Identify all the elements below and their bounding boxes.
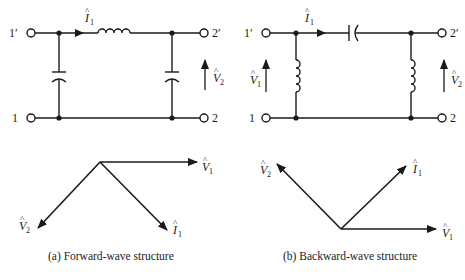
label-current-a: I 1 ^ [84,6,94,27]
terminal-2-b [438,114,446,122]
shunt-inductor-right-b [411,60,415,92]
svg-text:2: 2 [458,80,462,89]
label-v1-b: V 1 ^ [250,68,261,89]
phasor-i1-a [100,162,167,230]
label-1-b: 1 [249,111,255,125]
terminal-2prime-a [200,29,208,37]
svg-text:2: 2 [267,170,271,179]
node-a-tr [169,30,174,35]
svg-text:1: 1 [90,18,94,27]
label-2prime-b: 2′ [450,26,459,40]
svg-text:^: ^ [173,218,178,228]
circuit-a [27,29,208,122]
label-1-a: 1 [12,111,18,125]
terminal-2prime-b [438,29,446,37]
node-b-tr [408,30,413,35]
label-current-b: I 1 ^ [304,6,314,27]
label-1prime-a: 1′ [9,26,18,40]
shunt-inductor-left-b [296,60,300,92]
phasor-label-i1-a: I 1 ^ [172,218,182,239]
terminal-1prime-b [262,29,270,37]
svg-text:1: 1 [178,230,182,239]
svg-text:^: ^ [413,157,418,167]
svg-text:1: 1 [209,167,213,176]
svg-text:^: ^ [305,6,310,16]
label-2prime-a: 2′ [212,26,221,40]
figure-canvas: 1′ 1 2′ 2 I 1 ^ V 2 ^ [0,0,465,280]
phasor-v2-b [277,164,341,229]
caption-a: (a) Forward-wave structure [48,250,174,262]
node-a-bl [56,115,61,120]
svg-text:2: 2 [26,226,30,235]
phasor-i1-b [341,166,406,229]
caption-b: (b) Backward-wave structure [283,250,417,262]
circuit-b [262,25,446,122]
phasor-label-v2-a: V 2 ^ [19,214,30,235]
phasor-v2-a [38,162,100,228]
node-b-tl [293,30,298,35]
node-a-tl [56,30,61,35]
label-v2-a: V 2 ^ [213,66,224,87]
label-v2-b: V 2 ^ [451,68,462,89]
svg-text:^: ^ [85,6,90,16]
node-a-br [169,115,174,120]
label-1prime-b: 1′ [244,26,253,40]
svg-text:1: 1 [449,233,453,242]
svg-text:1: 1 [257,80,261,89]
terminal-1-a [27,114,35,122]
phasor-label-v1-b: V 1 ^ [442,221,453,242]
phasor-label-v1-a: V 1 ^ [202,155,213,176]
phasor-label-v2-b: V 2 ^ [260,158,271,179]
terminal-2-a [200,114,208,122]
svg-text:1: 1 [418,169,422,178]
label-2-a: 2 [212,111,218,125]
node-b-br [408,115,413,120]
svg-text:2: 2 [220,78,224,87]
series-inductor-a [98,29,130,33]
current-arrow-b [317,29,326,37]
svg-text:1: 1 [310,18,314,27]
terminal-1prime-a [27,29,35,37]
label-2-b: 2 [450,111,456,125]
phasor-label-i1-b: I 1 ^ [412,157,422,178]
terminal-1-b [262,114,270,122]
current-arrow-a [75,29,84,37]
node-b-bl [293,115,298,120]
